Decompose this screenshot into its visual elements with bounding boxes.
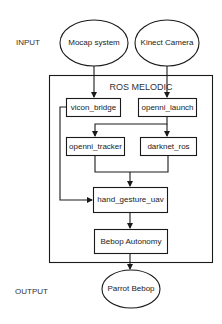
container-title: ROS MELODIC xyxy=(109,83,172,92)
hand-gesture-uav-label: hand_gesture_uav xyxy=(97,196,163,204)
openni-tracker-label: openni_tracker xyxy=(69,143,122,151)
diagram-canvas xyxy=(0,0,222,324)
bebop-autonomy-label: Bebop Autonomy xyxy=(101,238,162,246)
parrot-bebop-label: Parrot Bebop xyxy=(107,285,154,293)
mocap-system-label: Mocap system xyxy=(68,39,120,47)
input-label: INPUT xyxy=(16,39,40,47)
kinect-camera-label: Kinect Camera xyxy=(141,39,194,47)
output-label: OUTPUT xyxy=(15,288,48,296)
darknet-ros-label: darknet_ros xyxy=(147,143,189,151)
vicon-bridge-label: vicon_bridge xyxy=(71,104,116,112)
openni-launch-label: openni_launch xyxy=(141,104,193,112)
